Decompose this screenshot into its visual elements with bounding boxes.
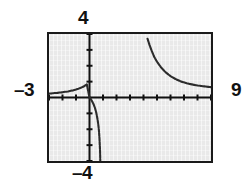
- plot-canvas: [49, 34, 211, 161]
- axes-group: [49, 34, 211, 161]
- plot-frame: [47, 32, 213, 163]
- window-label-ymin: –4: [72, 163, 92, 182]
- window-label-ymax: 4: [78, 8, 88, 27]
- curve-left-branch: [49, 84, 100, 161]
- window-label-xmin: –3: [14, 80, 34, 99]
- graph-figure: 4 –4 –3 9: [0, 0, 251, 194]
- curve-right-branch: [148, 39, 211, 87]
- window-label-xmax: 9: [231, 80, 241, 99]
